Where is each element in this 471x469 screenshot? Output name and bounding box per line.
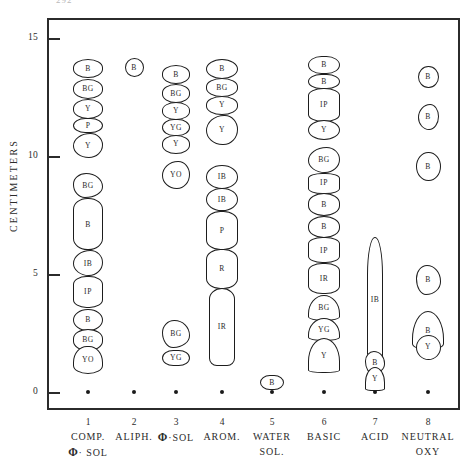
band-spot: IB [367,237,383,362]
band-label: IB [371,296,380,304]
band-spot: IP [308,173,340,194]
band-spot: P [73,118,103,133]
band-label: B [321,223,327,231]
band-spot: Y [206,115,238,146]
band-label: B [321,78,327,86]
band-label: B [321,61,327,69]
band-label: P [220,227,225,235]
lane-name-line2-1: Φ· SOL [43,446,133,458]
band-spot: B [162,65,190,84]
band-label: BG [170,90,182,98]
band-label: IR [218,323,227,331]
origin-dot-lane-8 [426,390,430,394]
band-spot: Y [416,335,441,360]
band-label: IP [84,288,92,296]
band-spot: B [73,198,103,250]
band-label: P [86,122,91,130]
x-tick-label-8: 8 [398,417,458,427]
origin-dot-lane-2 [132,390,136,394]
origin-dot-lane-6 [322,390,326,394]
band-spot: B [206,59,238,79]
y-axis-title: CENTIMETERS [8,126,19,246]
band-label: B [321,201,327,209]
band-spot: B [308,56,340,74]
band-spot: Y [73,99,103,119]
band-label: Y [321,126,327,134]
band-label: B [425,163,431,171]
band-label: IR [320,275,329,283]
band-label: YO [82,356,94,364]
band-label: Y [173,140,179,148]
band-label: IP [320,101,328,109]
band-label: B [425,113,431,121]
band-label: BG [318,304,330,312]
band-spot: YO [162,161,190,189]
band-spot: YG [162,119,190,136]
band-spot: P [206,211,238,250]
band-spot: BG [308,147,340,173]
y-tick-0 [47,392,60,394]
band-spot: BG [73,173,103,198]
lane-name-line2-8: OXY [383,446,471,457]
band-label: B [219,65,225,73]
band-label: YO [170,171,182,179]
band-spot: IR [308,263,340,294]
lane-name-8: NEUTRAL [383,431,471,442]
band-label: IB [84,260,93,268]
band-label: BG [82,85,94,93]
band-label: Y [372,375,378,383]
band-label: B [425,276,431,284]
band-label: BG [170,330,182,338]
band-spot: IP [308,88,340,122]
band-label: IP [320,247,328,255]
band-label: Y [85,105,91,113]
band-spot: YO [73,346,103,374]
band-spot: B [308,193,340,215]
band-label: BG [82,182,94,190]
band-label: Y [85,142,91,150]
band-spot: YG [162,350,190,367]
band-label: BG [318,156,330,164]
band-label: B [372,359,378,367]
y-tick-label-10: 10 [14,150,38,160]
origin-dot-lane-3 [174,390,178,394]
band-spot: B [416,152,441,182]
x-tick-label-7: 7 [345,417,405,427]
band-spot: B [416,265,441,295]
band-label: Y [425,343,431,351]
band-label: B [131,64,137,72]
band-label: B [85,316,91,324]
band-label: B [425,327,431,335]
band-label: Y [173,107,179,115]
band-spot: IP [73,276,103,308]
band-label: IB [218,173,227,181]
origin-dot-lane-4 [220,390,224,394]
band-spot: Y [365,367,385,391]
band-spot: B [73,59,103,78]
band-spot: IB [206,165,238,189]
y-tick-label-15: 15 [14,32,38,42]
band-spot: Y [73,133,103,158]
band-label: IB [218,196,227,204]
y-tick-15 [47,38,60,40]
band-label: YG [170,124,182,132]
band-label: YG [170,354,182,362]
origin-dot-lane-1 [86,390,90,394]
y-tick-10 [47,156,60,158]
y-tick-5 [47,274,60,276]
band-label: B [85,221,91,229]
band-spot: B [418,66,439,88]
x-tick-label-5: 5 [242,417,302,427]
band-spot: BG [162,84,190,103]
band-label: IP [320,179,328,187]
band-spot: BG [73,79,103,99]
band-spot: Y [162,102,190,120]
band-spot: B [308,216,340,238]
band-spot: IR [209,288,235,366]
band-label: Y [321,352,327,360]
chromatogram-figure: 292 CENTIMETERS 051015 1COMP.Φ· SOL2ALIP… [0,0,471,469]
band-label: B [85,65,91,73]
y-tick-label-5: 5 [14,268,38,278]
lane-name-line2-5: SOL. [227,446,317,457]
origin-dot-lane-5 [270,390,274,394]
